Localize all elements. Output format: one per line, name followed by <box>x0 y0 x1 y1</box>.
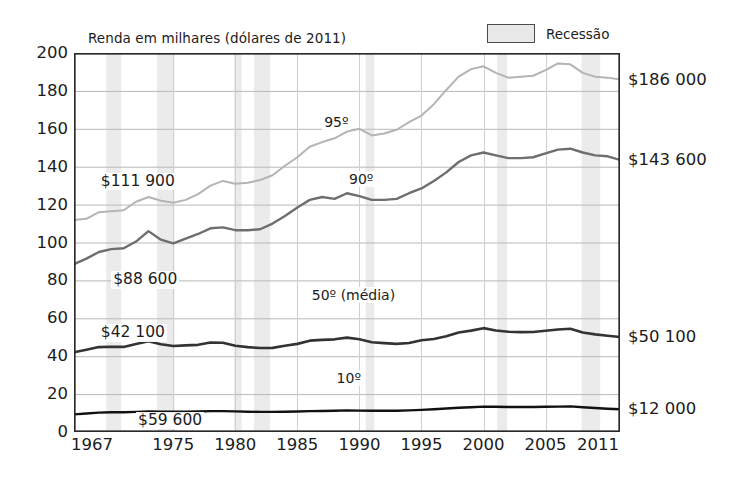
y-tick-label: 120 <box>8 196 68 213</box>
chart-figure: Renda em milhares (dólares de 2011) Rece… <box>0 0 741 487</box>
y-tick-label: 160 <box>8 121 68 138</box>
x-tick-label: 2000 <box>463 437 505 454</box>
series-line-90 <box>74 149 620 264</box>
x-tick-label: 2011 <box>577 437 619 454</box>
y-tick-label: 180 <box>8 83 68 100</box>
chart-title: Renda em milhares (dólares de 2011) <box>88 30 346 46</box>
right-value-label: $50 100 <box>628 329 696 346</box>
y-tick-label: 0 <box>8 424 68 441</box>
right-value-label: $12 000 <box>628 401 696 418</box>
x-tick-label: 1967 <box>71 437 113 454</box>
y-tick-label: 140 <box>8 158 68 175</box>
y-tick-label: 20 <box>8 386 68 403</box>
annotation-value-4: $111 900 <box>99 173 177 191</box>
annotation-series-1: 90º <box>347 171 375 187</box>
annotation-value-7: $59 600 <box>136 412 204 430</box>
x-tick-label: 1990 <box>338 437 380 454</box>
x-tick-label: 1975 <box>152 437 194 454</box>
x-tick-label: 1995 <box>400 437 442 454</box>
y-tick-label: 40 <box>8 348 68 365</box>
x-axis-tick-labels: 196719751980198519901995200020052011 <box>74 437 620 463</box>
legend: Recessão <box>487 24 609 43</box>
series-line-95 <box>74 63 620 220</box>
annotation-series-3: 10º <box>335 370 363 386</box>
x-tick-label: 2005 <box>525 437 567 454</box>
annotation-value-5: $88 600 <box>111 271 179 289</box>
y-tick-label: 100 <box>8 234 68 251</box>
plot-area: 95º90º50º (média)10º$111 900$88 600$42 1… <box>74 53 620 432</box>
y-axis-tick-labels: 020406080100120140160180200 <box>0 53 68 432</box>
gridlines-horizontal <box>74 91 620 394</box>
y-tick-label: 200 <box>8 45 68 62</box>
annotation-series-2: 50º (média) <box>310 287 397 303</box>
right-value-label: $143 600 <box>628 152 707 169</box>
x-tick-label: 1980 <box>214 437 256 454</box>
y-tick-label: 60 <box>8 310 68 327</box>
recession-swatch <box>487 24 535 43</box>
y-tick-label: 80 <box>8 272 68 289</box>
annotation-value-6: $42 100 <box>99 324 167 342</box>
x-tick-label: 1985 <box>276 437 318 454</box>
right-value-labels: $186 000$143 600$50 100$12 000 <box>628 53 741 432</box>
annotation-series-0: 95º <box>322 114 350 130</box>
right-value-label: $186 000 <box>628 71 707 88</box>
legend-item-recessao: Recessão <box>546 26 609 42</box>
